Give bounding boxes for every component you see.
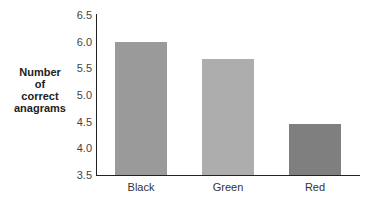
y-tick-label: 6.0 [70, 36, 92, 48]
x-tick-label-green: Green [188, 181, 268, 193]
y-axis-label-line: of [6, 78, 74, 90]
bar-red [289, 124, 341, 175]
x-tick-label-black: Black [101, 181, 181, 193]
y-tick-label: 4.0 [70, 142, 92, 154]
x-axis-line [96, 175, 360, 176]
y-axis-label: Number of correct anagrams [6, 66, 74, 114]
x-tick-label-red: Red [275, 181, 355, 193]
y-tick-label: 3.5 [70, 169, 92, 181]
y-axis-line [96, 14, 97, 176]
y-axis-label-line: anagrams [6, 102, 74, 114]
y-axis-label-line: correct [6, 90, 74, 102]
y-tick-label: 5.5 [70, 62, 92, 74]
y-axis-label-line: Number [6, 66, 74, 78]
y-tick-label: 6.5 [70, 9, 92, 21]
y-tick-label: 4.5 [70, 116, 92, 128]
bar-green [202, 59, 254, 175]
y-tick-label: 5.0 [70, 89, 92, 101]
bar-black [115, 42, 167, 175]
